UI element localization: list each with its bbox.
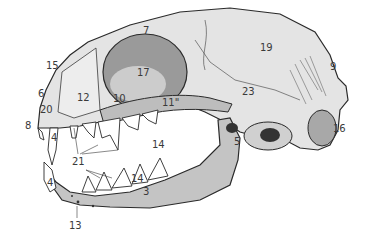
label-4-upper: 4 <box>51 133 57 143</box>
label-20: 20 <box>40 105 53 115</box>
label-23: 23 <box>242 87 255 97</box>
label-9: 9 <box>330 62 336 72</box>
label-15: 15 <box>46 61 59 71</box>
label-8: 8 <box>25 121 31 131</box>
label-14-upper: 14 <box>152 140 165 150</box>
label-5: 5 <box>234 137 240 147</box>
label-12: 12 <box>77 93 90 103</box>
skull-diagram: 7 19 15 9 17 6 12 23 10 11" 20 8 16 4 5 … <box>0 0 370 245</box>
label-17: 17 <box>137 68 150 78</box>
label-19: 19 <box>260 43 273 53</box>
label-11: 11" <box>162 98 179 108</box>
label-4-lower: 4 <box>47 178 53 188</box>
label-7: 7 <box>143 26 149 36</box>
label-21: 21 <box>72 157 85 167</box>
label-6: 6 <box>38 89 44 99</box>
skull-illustration <box>0 0 370 245</box>
label-13: 13 <box>69 221 82 231</box>
label-14-lower: 14 <box>131 174 144 184</box>
label-16: 16 <box>333 124 346 134</box>
ear-canal <box>260 128 280 142</box>
label-10: 10 <box>113 94 126 104</box>
label-3: 3 <box>143 187 149 197</box>
